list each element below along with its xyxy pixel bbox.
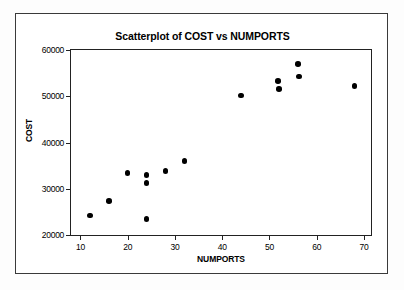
y-axis-tick-label: 40000 bbox=[42, 138, 64, 148]
y-axis-tick-label: 20000 bbox=[42, 230, 64, 240]
y-axis-title: COST bbox=[24, 119, 34, 142]
x-axis-tick-label: 60 bbox=[312, 242, 321, 252]
x-axis-tick bbox=[364, 235, 365, 240]
chart-title: Scatterplot of COST vs NUMPORTS bbox=[16, 30, 389, 42]
plot-area: 2000030000400005000060000 10203040506070 bbox=[70, 49, 372, 236]
y-axis-tick-label: 30000 bbox=[42, 184, 64, 194]
x-axis-tick-label: 30 bbox=[170, 242, 179, 252]
x-axis-tick bbox=[222, 235, 223, 240]
x-axis-tick-label: 40 bbox=[218, 242, 227, 252]
x-axis-tick bbox=[269, 235, 270, 240]
data-point bbox=[125, 170, 131, 176]
x-axis-tick bbox=[128, 235, 129, 240]
data-point bbox=[182, 158, 188, 164]
data-point bbox=[352, 83, 358, 89]
y-axis-tick-label: 50000 bbox=[42, 91, 64, 101]
x-axis-tick bbox=[317, 235, 318, 240]
x-axis-title: NUMPORTS bbox=[70, 254, 372, 264]
x-axis-tick-label: 20 bbox=[123, 242, 132, 252]
x-axis-tick-label: 50 bbox=[265, 242, 274, 252]
y-axis-tick-label: 60000 bbox=[42, 45, 64, 55]
y-axis-tick bbox=[66, 235, 71, 236]
data-point bbox=[106, 198, 112, 204]
x-axis-tick bbox=[80, 235, 81, 240]
x-axis-tick-label: 70 bbox=[359, 242, 368, 252]
x-axis-tick bbox=[175, 235, 176, 240]
data-point bbox=[238, 93, 244, 99]
data-point bbox=[276, 86, 282, 92]
data-points-layer bbox=[71, 50, 371, 235]
data-point bbox=[275, 78, 281, 84]
data-point bbox=[144, 216, 150, 222]
data-point bbox=[87, 213, 93, 219]
data-point bbox=[163, 168, 169, 174]
data-point bbox=[144, 172, 150, 178]
data-point bbox=[295, 61, 301, 67]
scatterplot-figure: Scatterplot of COST vs NUMPORTS COST NUM… bbox=[0, 0, 404, 290]
data-point bbox=[144, 180, 150, 186]
figure-border: Scatterplot of COST vs NUMPORTS COST NUM… bbox=[15, 13, 388, 274]
data-point bbox=[296, 74, 302, 80]
x-axis-tick-label: 10 bbox=[76, 242, 85, 252]
